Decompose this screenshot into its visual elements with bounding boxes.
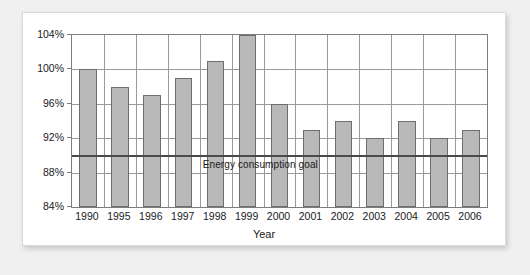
x-tick-label-2006: 2006 xyxy=(458,210,481,222)
bar-2006[interactable] xyxy=(462,130,480,207)
gridline-100% xyxy=(72,69,487,70)
x-tick-label-1999: 1999 xyxy=(235,210,258,222)
y-tick-label: 84% xyxy=(43,200,64,212)
category-divider xyxy=(455,35,456,207)
x-tick-label-1996: 1996 xyxy=(139,210,162,222)
y-tick-label: 92% xyxy=(43,131,64,143)
x-tick-label-2001: 2001 xyxy=(299,210,322,222)
bar-1998[interactable] xyxy=(207,61,225,207)
chart-card: 84%88%92%96%100%104% Energy consumption … xyxy=(22,12,506,246)
x-tick-label-1998: 1998 xyxy=(203,210,226,222)
category-divider xyxy=(359,35,360,207)
x-tick-label-2005: 2005 xyxy=(426,210,449,222)
y-tick-label: 100% xyxy=(37,62,64,74)
bar-2002[interactable] xyxy=(335,121,353,207)
category-divider xyxy=(327,35,328,207)
x-axis-title: Year xyxy=(23,228,505,240)
x-tick-label-2003: 2003 xyxy=(363,210,386,222)
category-divider xyxy=(295,35,296,207)
category-divider xyxy=(423,35,424,207)
x-tick-label-1997: 1997 xyxy=(171,210,194,222)
bar-2005[interactable] xyxy=(430,138,448,207)
category-divider xyxy=(232,35,233,207)
y-tick-label: 104% xyxy=(37,28,64,40)
category-divider xyxy=(200,35,201,207)
bar-1996[interactable] xyxy=(143,95,161,207)
goal-line xyxy=(72,155,487,157)
bar-1995[interactable] xyxy=(111,87,129,207)
x-tick-label-2004: 2004 xyxy=(395,210,418,222)
x-tick-label-2000: 2000 xyxy=(267,210,290,222)
category-divider xyxy=(104,35,105,207)
category-divider xyxy=(391,35,392,207)
x-tick-label-2002: 2002 xyxy=(331,210,354,222)
x-tick-label-1995: 1995 xyxy=(107,210,130,222)
y-tick-label: 96% xyxy=(43,97,64,109)
plot-area: Energy consumption goal xyxy=(71,34,488,208)
y-tick-label: 88% xyxy=(43,166,64,178)
category-divider xyxy=(136,35,137,207)
category-divider xyxy=(264,35,265,207)
bar-1990[interactable] xyxy=(79,69,97,207)
category-divider xyxy=(168,35,169,207)
bar-2004[interactable] xyxy=(398,121,416,207)
bar-1997[interactable] xyxy=(175,78,193,207)
bar-2003[interactable] xyxy=(366,138,384,207)
goal-line-label: Energy consumption goal xyxy=(203,159,318,170)
x-tick-label-1990: 1990 xyxy=(75,210,98,222)
bar-1999[interactable] xyxy=(239,35,257,207)
